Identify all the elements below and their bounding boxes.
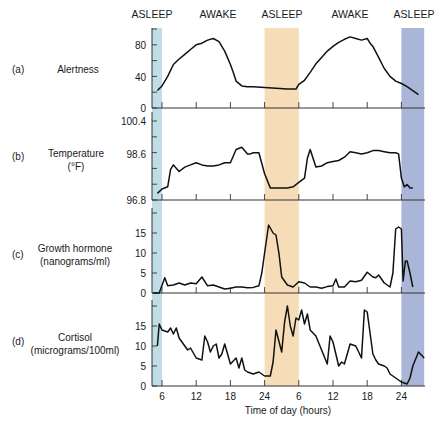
panel-d-unit: (micrograms/100ml) xyxy=(31,345,120,356)
state-label-asleep-1: ASLEEP xyxy=(132,8,173,20)
x-tick-label: 12 xyxy=(327,391,339,402)
panel-c-letter: (c) xyxy=(12,249,24,260)
sleep-wake-physiology-chart: ASLEEP AWAKE ASLEEP AWAKE ASLEEP (a) Ale… xyxy=(0,0,441,422)
asleep-band xyxy=(401,28,424,386)
y-tick-c-15: 15 xyxy=(135,228,147,239)
y-tick-a-40: 40 xyxy=(135,72,147,83)
x-tick-label: 12 xyxy=(191,391,203,402)
state-label-asleep-3: ASLEEP xyxy=(394,8,435,20)
state-label-awake-2: AWAKE xyxy=(331,8,368,20)
x-tick-label: 6 xyxy=(296,391,302,402)
asleep-band xyxy=(152,28,162,386)
x-tick-label: 18 xyxy=(225,391,237,402)
panel-c-unit: (nanograms/ml) xyxy=(40,256,110,267)
panel-a-letter: (a) xyxy=(12,64,24,75)
sleep-bands xyxy=(152,28,424,386)
y-tick-d-10: 10 xyxy=(135,341,147,352)
state-label-awake-1: AWAKE xyxy=(199,8,236,20)
state-label-asleep-2: ASLEEP xyxy=(262,8,303,20)
y-tick-d-0: 0 xyxy=(140,381,146,392)
state-labels: ASLEEP AWAKE ASLEEP AWAKE ASLEEP xyxy=(132,8,435,20)
y-tick-a-0: 0 xyxy=(140,103,146,114)
y-tick-d-5: 5 xyxy=(140,361,146,372)
y-tick-d-15: 15 xyxy=(135,321,147,332)
y-tick-b-96-8: 96.8 xyxy=(127,195,147,206)
panel-c-name: Growth hormone xyxy=(38,243,113,254)
x-tick-label: 24 xyxy=(396,391,408,402)
y-tick-labels: 80 40 0 100.4 98.6 96.8 15 10 5 0 15 10 … xyxy=(121,40,146,392)
panel-b-unit: (°F) xyxy=(68,161,85,172)
x-tick-label: 6 xyxy=(159,391,165,402)
panel-b-letter: (b) xyxy=(12,151,24,162)
panel-a-name: Alertness xyxy=(57,64,99,75)
y-tick-b-98-6: 98.6 xyxy=(127,149,147,160)
panel-b-name: Temperature xyxy=(48,148,105,159)
panel-d-letter: (d) xyxy=(12,336,24,347)
panel-d-name: Cortisol xyxy=(58,332,92,343)
y-tick-c-10: 10 xyxy=(135,248,147,259)
x-axis-label: Time of day (hours) xyxy=(245,405,331,416)
x-tick-label: 24 xyxy=(259,391,271,402)
x-tick-label: 18 xyxy=(362,391,374,402)
y-tick-a-80: 80 xyxy=(135,40,147,51)
y-tick-b-100-4: 100.4 xyxy=(121,116,146,127)
y-tick-c-5: 5 xyxy=(140,268,146,279)
panel-labels: (a) Alertness (b) Temperature (°F) (c) G… xyxy=(12,64,119,356)
x-tick-labels: 61218246121824 xyxy=(159,391,407,402)
y-tick-c-0: 0 xyxy=(140,288,146,299)
